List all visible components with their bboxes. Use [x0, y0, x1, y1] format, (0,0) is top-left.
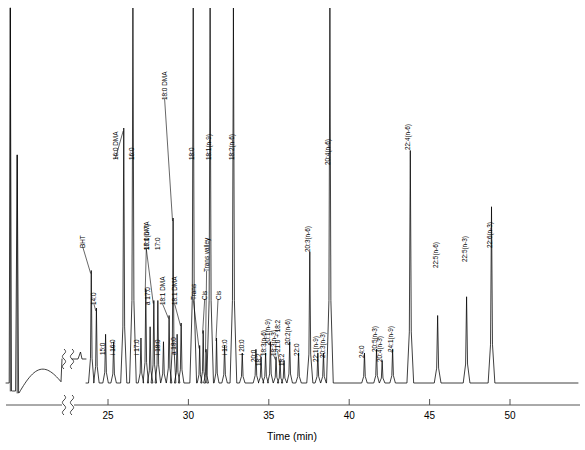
peak-label: 16:0: [128, 147, 135, 160]
peak-label: 20:3(n-6): [304, 226, 312, 252]
peak-label: 20:4(n-6): [324, 139, 332, 165]
peak-label: a 18:0: [170, 337, 177, 355]
peak-label-layer: BHT14:015:0i 16:016:0 DMA16:0i 17:017:0 …: [79, 71, 493, 366]
peak-label: i 16:0: [109, 339, 116, 355]
peak-label: a 17:0: [144, 287, 151, 305]
peak-label: 22:4(n-6): [404, 124, 412, 150]
x-tick-label: 50: [504, 410, 516, 421]
x-axis-layer: 253035404550: [6, 395, 580, 421]
peak-label: 16:1(n-7): [143, 224, 151, 250]
peak-label: i 17:0: [133, 339, 140, 355]
peak-label: 24:0: [358, 345, 365, 358]
x-tick-label: 25: [102, 410, 114, 421]
peak-label: 24:1(n-9): [387, 326, 395, 352]
x-tick-label: 45: [424, 410, 436, 421]
peak-label: i 18:0: [154, 339, 161, 355]
peak-label: 18:1 DMA: [171, 276, 178, 305]
x-tick-label: 35: [263, 410, 275, 421]
peak-label: 18:0 DMA: [161, 71, 168, 100]
peak-label: 18:1(n-9): [205, 134, 213, 160]
x-tick-label: 30: [183, 410, 195, 421]
peak-label: Cis: [215, 291, 222, 300]
peak-label: i 20:0: [238, 339, 245, 355]
x-tick-label: 40: [344, 410, 356, 421]
chromatogram-figure: 253035404550 BHT14:015:0i 16:016:0 DMA16…: [0, 0, 585, 450]
peak-label: 15:0: [99, 342, 106, 355]
peak-label: 14:0: [90, 292, 97, 305]
peak-label: 21:0 + 18:2: [274, 319, 281, 352]
peak-label: 18:2(n-6): [228, 134, 236, 160]
signal-trace-layer: [6, 8, 578, 393]
peak-label: 17:0: [154, 237, 161, 250]
peak-label: Trans valley: [203, 237, 211, 272]
peak-label: 22:0: [293, 343, 300, 356]
peak-label: Trans: [190, 284, 197, 300]
peak-label: 20:4(n-3): [376, 336, 384, 362]
peak-label: 22:5(n-3): [461, 236, 469, 262]
peak-label: 18:0: [188, 147, 195, 160]
peak-label: 18:2: [278, 353, 285, 366]
x-axis-title: Time (min): [267, 430, 317, 442]
peak-label: BHT: [79, 235, 86, 248]
peak-label: Cis: [201, 291, 208, 300]
peak-label: 22:6(n-3): [486, 222, 494, 248]
chromatogram-plot: 253035404550 BHT14:015:0i 16:016:0 DMA16…: [0, 0, 585, 450]
peak-label: 16:0 DMA: [112, 131, 119, 160]
peak-label: 20:2(n-6): [284, 319, 292, 345]
peak-label: 18:1 DMA: [159, 276, 166, 305]
peak-label: 22:5(n-6): [432, 242, 440, 268]
peak-label: i 19:0: [221, 339, 228, 355]
peak-label: 20:3(n-3): [319, 332, 327, 358]
